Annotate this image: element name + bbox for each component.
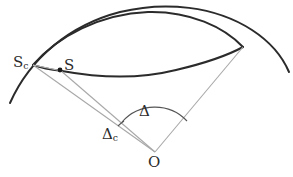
label-source-corrected: Sc (13, 55, 29, 70)
figure-canvas (0, 0, 293, 177)
geometry-figure: Sc S O Δ Δc (0, 0, 293, 177)
angle-arc-delta (122, 107, 187, 122)
label-source: S (64, 58, 74, 73)
point-s-marker (58, 68, 63, 73)
big-circle-arc (10, 6, 289, 103)
ray-origin-to-right (155, 47, 243, 152)
angle-arc-delta-c (118, 121, 124, 126)
label-angle-delta-c: Δc (102, 127, 118, 142)
label-angle-delta: Δ (139, 104, 150, 119)
ray-origin-to-sc (33, 65, 155, 152)
label-origin: O (148, 155, 160, 170)
